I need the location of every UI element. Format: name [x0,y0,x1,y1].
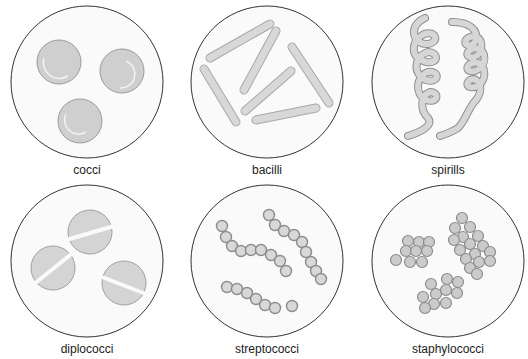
label-cocci: cocci [27,163,147,177]
bacteria-shapes-diagram: cocci bacilli spirills diplococci strept… [0,0,528,359]
label-staphylococci: staphylococci [388,342,508,356]
label-bacilli: bacilli [207,163,327,177]
label-diplococci: diplococci [27,342,147,356]
label-spirills: spirills [388,163,508,177]
diagram-canvas [0,0,528,359]
label-streptococci: streptococci [207,342,327,356]
streptococci-field [191,185,343,337]
